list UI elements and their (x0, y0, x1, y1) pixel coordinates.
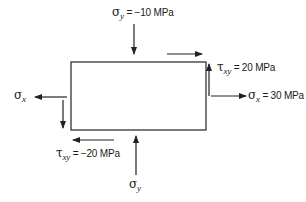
sigma-y-bottom-label: σy (129, 178, 141, 191)
sigma-x-right-label: σx = 30 MPa (248, 89, 304, 102)
tau-xy-bottom-label: τxy = −20 MPa (56, 147, 120, 160)
sigma-x-left-label: σx (14, 89, 26, 102)
tau-xy-right-label: τxy = 20 MPa (217, 61, 275, 74)
sigma-symbol: σ (129, 177, 137, 191)
sigma-symbol: σ (14, 88, 22, 102)
sigma-symbol: σ (112, 5, 120, 19)
sigma-y-top-label: σy = −10 MPa (112, 6, 174, 19)
sigma-symbol: σ (248, 88, 256, 102)
stress-element (71, 62, 206, 130)
